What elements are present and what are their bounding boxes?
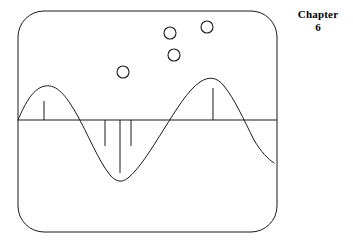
circle-marker-2: [201, 21, 213, 33]
chapter-caption: Chapter 6: [286, 8, 350, 34]
circle-marker-4: [117, 66, 129, 78]
figure-page: Chapter 6: [0, 0, 353, 242]
circle-marker-3: [168, 49, 180, 61]
chapter-number: 6: [286, 21, 350, 34]
circle-marker-1: [164, 27, 176, 39]
waveform-curve: [18, 78, 274, 181]
chapter-figure: [0, 0, 353, 242]
figure-frame: [18, 11, 277, 232]
chapter-word: Chapter: [286, 8, 350, 21]
